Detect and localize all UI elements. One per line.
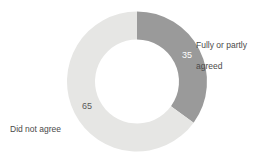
slice-label-agreed-line1: Fully or partly [196, 40, 247, 50]
slice-label-agreed-line2: agreed [196, 61, 222, 71]
chart-canvas: 35 65 Fully or partly agreed Did not agr… [0, 0, 269, 164]
slice-label-agreed: Fully or partly agreed [196, 29, 266, 71]
slice-value-agreed: 35 [182, 50, 192, 60]
donut-chart: 35 65 [0, 0, 269, 164]
slice-label-did-not-agree: Did not agree [10, 113, 90, 134]
slice-value-did-not-agree: 65 [82, 101, 92, 111]
slice-label-did-not-agree-line1: Did not agree [10, 124, 61, 134]
